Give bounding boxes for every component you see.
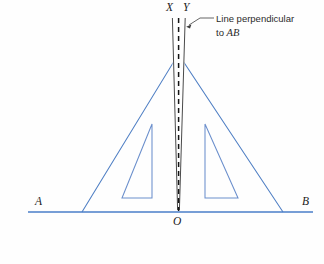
left-inner-triangle [122, 124, 152, 198]
annotation-line-1: Line perpendicular [216, 13, 294, 24]
label-x: X [166, 2, 173, 14]
annotation-line-2-italic: AB [227, 27, 240, 38]
label-o: O [173, 216, 181, 228]
right-set-square-outline [181, 58, 283, 212]
label-a: A [35, 196, 42, 208]
diagram-canvas: X Y A B O Line perpendicular to AB [0, 0, 324, 264]
label-y: Y [183, 2, 189, 14]
annotation-callout: Line perpendicular to AB [216, 13, 320, 40]
annotation-leader-line [189, 18, 214, 25]
annotation-arrowhead-icon [186, 25, 191, 29]
label-b: B [302, 196, 309, 208]
right-inner-triangle [205, 124, 238, 198]
annotation-line-2-prefix: to [216, 27, 227, 38]
left-set-square-outline [82, 58, 176, 212]
